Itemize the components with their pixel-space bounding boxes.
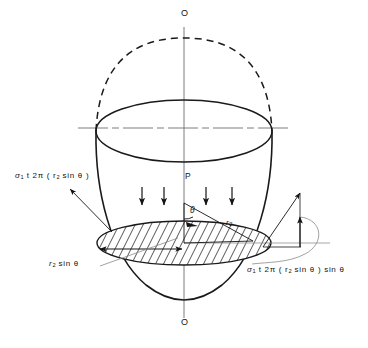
force-left-body: t 2π ( r xyxy=(24,171,57,180)
force-right-body: t 2π ( r xyxy=(256,265,289,274)
axis-label-bottom: O xyxy=(181,318,188,327)
force-label-right: σ1 t 2π ( r2 sin θ ) sin θ xyxy=(247,266,345,275)
pressure-arrows xyxy=(142,187,232,205)
force-left-tail: sin θ ) xyxy=(60,171,90,180)
force-vector-triangle xyxy=(263,193,301,247)
left-label-leader xyxy=(70,189,112,232)
theta-angle-label: θ xyxy=(190,206,195,215)
chord-length-label: r2 sin θ xyxy=(49,260,79,269)
axis-label-top: O xyxy=(181,9,188,18)
force-right-tail: sin θ ) sin θ xyxy=(292,265,345,274)
radius-r2-subscript: 2 xyxy=(229,221,232,227)
radius-r2-label: r2 xyxy=(226,219,232,228)
force-label-left: σ1 t 2π ( r2 sin θ ) xyxy=(15,172,89,181)
apex-point-label: P xyxy=(185,172,191,181)
chord-sin-theta: sin θ xyxy=(56,259,79,268)
